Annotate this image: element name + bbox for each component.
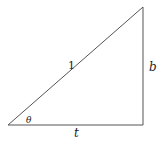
right-triangle-diagram: 1 b t θ: [0, 0, 166, 149]
vertical-side-label: b: [149, 60, 157, 74]
angle-label: θ: [26, 115, 32, 125]
triangle-shape: [8, 7, 143, 125]
horizontal-side-label: t: [74, 126, 79, 140]
hypotenuse-label: 1: [68, 59, 75, 72]
